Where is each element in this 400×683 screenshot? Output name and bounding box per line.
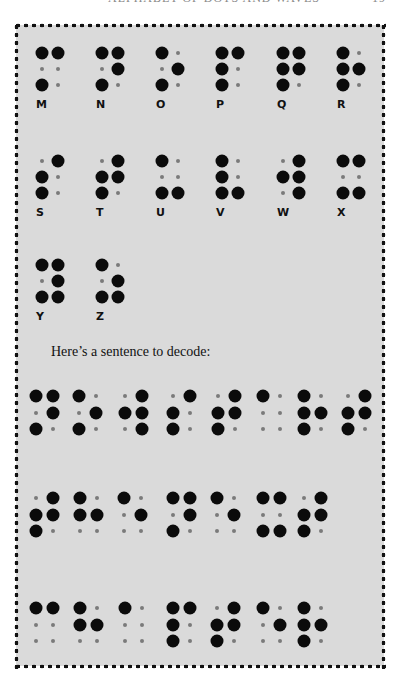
raised-dot bbox=[96, 187, 109, 200]
raised-dot bbox=[342, 423, 355, 436]
raised-dot bbox=[156, 47, 169, 60]
empty-dot bbox=[100, 159, 104, 163]
empty-dot bbox=[236, 175, 240, 179]
raised-dot bbox=[358, 390, 371, 403]
empty-dot bbox=[122, 513, 126, 517]
raised-dot bbox=[298, 508, 311, 521]
letter-label: Z bbox=[96, 310, 116, 323]
empty-dot bbox=[78, 639, 82, 643]
raised-dot bbox=[358, 406, 371, 419]
raised-dot bbox=[156, 79, 169, 92]
raised-dot bbox=[30, 423, 43, 436]
raised-dot bbox=[227, 602, 240, 615]
raised-dot bbox=[112, 63, 125, 76]
raised-dot bbox=[112, 47, 125, 60]
raised-dot bbox=[36, 171, 49, 184]
empty-dot bbox=[297, 83, 301, 87]
empty-dot bbox=[56, 67, 60, 71]
empty-dot bbox=[261, 427, 265, 431]
letter-label: P bbox=[216, 98, 236, 111]
empty-dot bbox=[215, 606, 219, 610]
empty-dot bbox=[319, 394, 323, 398]
raised-dot bbox=[112, 291, 125, 304]
empty-dot bbox=[94, 394, 98, 398]
empty-dot bbox=[51, 427, 55, 431]
raised-dot bbox=[119, 602, 132, 615]
raised-dot bbox=[273, 618, 286, 631]
empty-dot bbox=[216, 394, 220, 398]
raised-dot bbox=[135, 390, 148, 403]
empty-dot bbox=[302, 496, 306, 500]
raised-dot bbox=[211, 492, 224, 505]
empty-dot bbox=[100, 67, 104, 71]
empty-dot bbox=[123, 623, 127, 627]
empty-dot bbox=[188, 639, 192, 643]
raised-dot bbox=[298, 525, 311, 538]
letter-label: R bbox=[337, 98, 357, 111]
empty-dot bbox=[40, 159, 44, 163]
raised-dot bbox=[30, 525, 43, 538]
raised-dot bbox=[156, 155, 169, 168]
raised-dot bbox=[183, 390, 196, 403]
empty-dot bbox=[51, 623, 55, 627]
empty-dot bbox=[278, 513, 282, 517]
empty-dot bbox=[261, 411, 265, 415]
empty-dot bbox=[176, 83, 180, 87]
empty-dot bbox=[171, 513, 175, 517]
raised-dot bbox=[277, 47, 290, 60]
raised-dot bbox=[337, 63, 350, 76]
raised-dot bbox=[216, 171, 229, 184]
raised-dot bbox=[273, 525, 286, 538]
raised-dot bbox=[183, 492, 196, 505]
letter-label: X bbox=[337, 206, 357, 219]
empty-dot bbox=[188, 427, 192, 431]
raised-dot bbox=[353, 63, 366, 76]
raised-dot bbox=[353, 187, 366, 200]
raised-dot bbox=[74, 602, 87, 615]
raised-dot bbox=[257, 390, 270, 403]
raised-dot bbox=[167, 423, 180, 436]
raised-dot bbox=[52, 259, 65, 272]
raised-dot bbox=[298, 390, 311, 403]
raised-dot bbox=[52, 291, 65, 304]
empty-dot bbox=[281, 159, 285, 163]
empty-dot bbox=[95, 606, 99, 610]
raised-dot bbox=[96, 79, 109, 92]
empty-dot bbox=[176, 175, 180, 179]
raised-dot bbox=[293, 47, 306, 60]
empty-dot bbox=[232, 529, 236, 533]
empty-dot bbox=[278, 394, 282, 398]
raised-dot bbox=[74, 492, 87, 505]
empty-dot bbox=[236, 67, 240, 71]
empty-dot bbox=[40, 279, 44, 283]
empty-dot bbox=[56, 83, 60, 87]
empty-dot bbox=[363, 427, 367, 431]
letter-label: Q bbox=[277, 98, 297, 111]
empty-dot bbox=[140, 623, 144, 627]
raised-dot bbox=[167, 602, 180, 615]
raised-dot bbox=[298, 618, 311, 631]
empty-dot bbox=[40, 67, 44, 71]
running-header: ALPHABET OF DOTS AND WAVES 19 bbox=[0, 0, 400, 5]
raised-dot bbox=[337, 187, 350, 200]
empty-dot bbox=[160, 175, 164, 179]
letter-label: S bbox=[36, 206, 56, 219]
raised-dot bbox=[30, 602, 43, 615]
empty-dot bbox=[95, 639, 99, 643]
letter-label: T bbox=[96, 206, 116, 219]
empty-dot bbox=[278, 411, 282, 415]
empty-dot bbox=[261, 513, 265, 517]
raised-dot bbox=[298, 635, 311, 648]
empty-dot bbox=[56, 191, 60, 195]
raised-dot bbox=[74, 508, 87, 521]
raised-dot bbox=[167, 525, 180, 538]
empty-dot bbox=[215, 513, 219, 517]
raised-dot bbox=[36, 47, 49, 60]
raised-dot bbox=[112, 171, 125, 184]
raised-dot bbox=[216, 155, 229, 168]
empty-dot bbox=[176, 159, 180, 163]
raised-dot bbox=[96, 259, 109, 272]
empty-dot bbox=[357, 175, 361, 179]
braille-cell bbox=[0, 0, 30, 46]
raised-dot bbox=[36, 187, 49, 200]
